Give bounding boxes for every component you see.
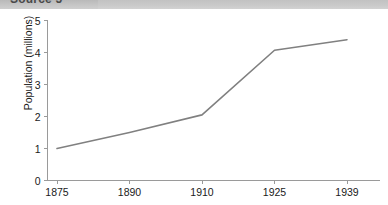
y-tick-label: 4 xyxy=(17,48,41,59)
plot-area xyxy=(0,9,388,205)
x-axis-ticks xyxy=(57,181,347,185)
x-tick-label: 1925 xyxy=(245,187,305,198)
x-tick-label: 1875 xyxy=(27,187,87,198)
x-tick-label: 1910 xyxy=(172,187,232,198)
source-banner: Source 5 xyxy=(0,0,388,9)
y-tick-label: 1 xyxy=(17,144,41,155)
population-line-series xyxy=(57,40,347,149)
x-tick-label: 1939 xyxy=(317,187,377,198)
chart-page: Source 5 Population (millions) 012345 18… xyxy=(0,0,388,205)
y-tick-label: 0 xyxy=(17,176,41,187)
axes xyxy=(48,20,381,181)
y-tick-label: 5 xyxy=(17,16,41,27)
y-axis-ticks xyxy=(44,21,48,181)
line-chart: Population (millions) 012345 18751890191… xyxy=(0,9,388,205)
y-tick-label: 2 xyxy=(17,112,41,123)
banner-title: Source 5 xyxy=(10,0,62,6)
y-tick-label: 3 xyxy=(17,80,41,91)
x-tick-label: 1890 xyxy=(100,187,160,198)
banner-fade xyxy=(98,0,388,9)
